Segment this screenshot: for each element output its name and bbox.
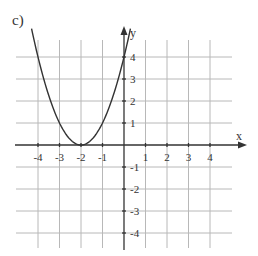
y-tick-label: -2	[130, 183, 139, 195]
y-tick-label: -1	[130, 161, 139, 173]
x-tick-label: -2	[76, 151, 85, 163]
y-tick-label: -4	[130, 227, 140, 239]
y-tick-label: 1	[130, 117, 136, 129]
y-tick-label: 2	[130, 95, 136, 107]
y-axis-arrow-icon	[121, 26, 128, 35]
panel-label: c)	[12, 12, 24, 29]
x-tick-label: 2	[164, 151, 170, 163]
x-tick-label: 1	[143, 151, 149, 163]
x-axis-label: x	[236, 129, 242, 143]
x-tick-label: 3	[186, 151, 192, 163]
x-tick-label: -3	[55, 151, 65, 163]
x-tick-label: -4	[33, 151, 43, 163]
x-tick-label: 4	[207, 151, 213, 163]
parabola-chart: c) y x -4-3-2-112344321-1-2-3-4	[0, 0, 258, 256]
y-axis-label: y	[130, 26, 136, 40]
y-tick-label: 4	[130, 51, 136, 63]
x-tick-label: -1	[98, 151, 107, 163]
y-tick-label: 3	[130, 73, 136, 85]
y-tick-label: -3	[130, 205, 140, 217]
